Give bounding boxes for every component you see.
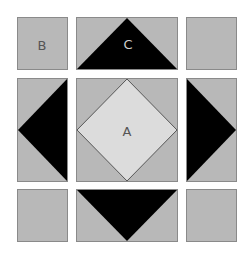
tile-middle-left: [17, 78, 68, 182]
label-b: B: [38, 38, 47, 53]
tile-top-center: C: [76, 17, 178, 70]
tile-top-left: B: [17, 17, 68, 70]
label-c: C: [123, 37, 132, 52]
black-triangle-icon: [18, 79, 67, 181]
tile-center: A: [76, 78, 178, 182]
tile-top-right: [186, 17, 237, 70]
label-a: A: [123, 124, 132, 139]
black-triangle-icon: [77, 190, 177, 241]
tile-bottom-center: [76, 189, 178, 242]
tile-middle-right: [186, 78, 237, 182]
tile-bottom-left: [17, 189, 68, 242]
tile-bottom-right: [186, 189, 237, 242]
black-triangle-icon: [187, 79, 236, 181]
